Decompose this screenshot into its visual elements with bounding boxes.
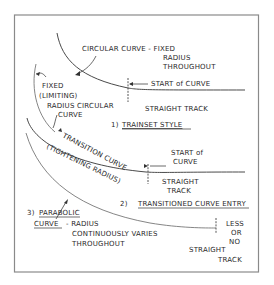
caption-1-title: TRAINSET STYLE bbox=[121, 121, 182, 129]
no-label: NO bbox=[229, 238, 240, 246]
straight-track-label-2b: TRACK bbox=[166, 187, 191, 195]
start-of-curve-label-2b: CURVE bbox=[173, 158, 198, 166]
arrow-icon bbox=[64, 199, 68, 204]
arrow-icon bbox=[75, 71, 80, 76]
caption-2-number: 2) bbox=[120, 200, 128, 208]
or-label: OR bbox=[231, 229, 242, 237]
caption-2-title: TRANSITIONED CURVE ENTRY bbox=[137, 200, 246, 208]
arrow-icon bbox=[129, 82, 133, 86]
straight-track-label-1: STRAIGHT TRACK bbox=[145, 105, 208, 113]
parabolic-desc-1: - RADIUS bbox=[66, 220, 99, 228]
limiting-label: (LIMITING) bbox=[39, 92, 78, 100]
start-of-curve-label-2a: START of bbox=[171, 149, 204, 157]
curve-title: CURVE bbox=[34, 220, 59, 228]
circular-curve-label: CIRCULAR CURVE - FIXED bbox=[82, 45, 175, 53]
caption-3-number: 3) bbox=[27, 209, 35, 217]
arrow-icon bbox=[36, 72, 40, 76]
straight-track-label-3a: STRAIGHT bbox=[189, 246, 226, 254]
parabolic-desc-2: CONTINUOUSLY VARIES bbox=[72, 230, 158, 238]
caption-1-number: 1) bbox=[111, 121, 119, 129]
curve-label: CURVE bbox=[58, 111, 83, 119]
straight-track-label-2a: STRAIGHT bbox=[162, 178, 199, 186]
fixed-label: FIXED bbox=[42, 82, 64, 90]
radius-circular-label: RADIUS CIRCULAR bbox=[47, 102, 114, 110]
arrow-icon bbox=[58, 128, 62, 132]
fixed-radius-leader bbox=[53, 115, 57, 128]
circular-curve-label-3: THROUGHOUT bbox=[162, 63, 216, 71]
arrow-icon bbox=[144, 164, 148, 168]
start-of-curve-label-1: START of CURVE bbox=[151, 80, 210, 88]
straight-track-label-3b: TRACK bbox=[217, 256, 242, 264]
parabolic-title: PARABOLIC bbox=[39, 209, 80, 217]
circular-curve-label-2: RADIUS bbox=[163, 54, 191, 62]
parabolic-desc-3: THROUGHOUT bbox=[71, 240, 125, 248]
railway-curve-diagram: CIRCULAR CURVE - FIXED RADIUS THROUGHOUT… bbox=[0, 0, 274, 285]
less-label: LESS bbox=[226, 220, 244, 228]
